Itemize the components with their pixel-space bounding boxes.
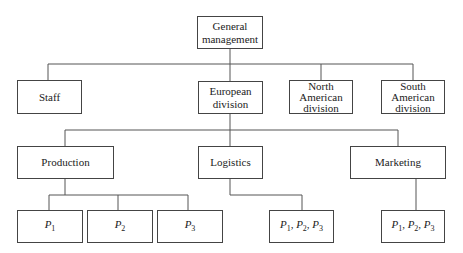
node-staff: Staff: [17, 80, 82, 114]
product-sub: 1: [51, 224, 55, 233]
node-label-line1: General: [202, 20, 258, 33]
node-label-line1: North: [299, 81, 342, 92]
product-sub: 2: [121, 224, 125, 233]
product-sub: 3: [319, 224, 323, 233]
node-south-american-division: SouthAmericandivision: [381, 80, 445, 114]
node-label-line2: American: [391, 92, 434, 103]
node-label-line3: division: [391, 103, 434, 114]
node-label-line1: South: [391, 81, 434, 92]
node-european-division: Europeandivision: [198, 81, 263, 114]
node-general-management: Generalmanagement: [197, 16, 263, 49]
node-label: Logistics: [210, 156, 250, 169]
product-var: P: [280, 218, 287, 230]
node-logistics: Logistics: [198, 146, 263, 179]
node-label-line1: European: [209, 85, 251, 98]
product-sub: 3: [191, 224, 195, 233]
node-label: Staff: [39, 91, 60, 104]
node-production-p2: P2: [87, 210, 153, 243]
node-production: Production: [17, 146, 114, 179]
node-north-american-division: NorthAmericandivision: [289, 80, 353, 114]
node-label-line2: division: [209, 98, 251, 111]
node-label: Production: [41, 156, 89, 169]
node-marketing: Marketing: [350, 146, 446, 179]
node-label-line2: American: [299, 92, 342, 103]
node-label-line3: division: [299, 103, 342, 114]
product-sub: 3: [431, 224, 435, 233]
node-label-line2: management: [202, 33, 258, 46]
product-var: P: [424, 218, 431, 230]
node-marketing-products: P1, P2, P3: [381, 210, 445, 243]
node-logistics-products: P1, P2, P3: [269, 210, 334, 243]
node-production-p1: P1: [17, 210, 83, 243]
product-var: P: [296, 218, 303, 230]
node-production-p3: P3: [157, 210, 223, 243]
node-label: Marketing: [375, 156, 421, 169]
